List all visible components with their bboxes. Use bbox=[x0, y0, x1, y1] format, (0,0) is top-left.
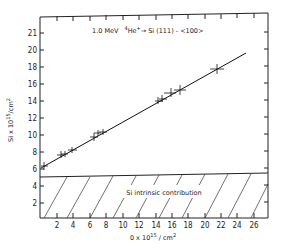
chart-title: 1.0 MeV4He+→Si (111) - <100> bbox=[92, 25, 203, 35]
x-tick-label: 4 bbox=[71, 221, 76, 230]
y-axis-title: Si x 1015/cm2 bbox=[5, 98, 15, 142]
y-tick-label: 8 bbox=[32, 148, 37, 157]
data-point bbox=[99, 129, 107, 135]
y-tick-label: 16 bbox=[28, 80, 38, 89]
region-label: Si intrinsic contribution bbox=[126, 189, 201, 197]
y-tick-label: 10 bbox=[28, 131, 38, 140]
x-tick-label: 14 bbox=[151, 221, 161, 230]
x-tick-label: 16 bbox=[167, 221, 177, 230]
y-tick-label: 18 bbox=[28, 63, 38, 72]
x-tick-label: 22 bbox=[216, 221, 225, 230]
si-intrinsic-region: Si intrinsic contribution bbox=[40, 173, 268, 218]
x-tick-label: 26 bbox=[249, 221, 259, 230]
x-axis: 2 4 6 8 10 12 14 16 18 20 22 24 26 0 x 1… bbox=[55, 13, 259, 242]
y-tick-label: 21 bbox=[28, 29, 37, 38]
x-tick-label: 12 bbox=[134, 221, 143, 230]
x-tick-label: 6 bbox=[88, 221, 93, 230]
y-tick-label: 12 bbox=[28, 114, 37, 123]
x-tick-label: 24 bbox=[232, 221, 242, 230]
y-tick-label: 2 bbox=[32, 199, 37, 208]
chart: Si intrinsic contribution bbox=[0, 0, 285, 252]
x-tick-label: 18 bbox=[183, 221, 193, 230]
x-axis-title: 0 x 1015 / cm2 bbox=[130, 232, 176, 242]
x-tick-label: 10 bbox=[118, 221, 128, 230]
svg-text:Si x 1015/cm2: Si x 1015/cm2 bbox=[5, 98, 15, 142]
y-tick-label: 20 bbox=[28, 46, 38, 55]
x-tick-label: 8 bbox=[104, 221, 109, 230]
data-point bbox=[174, 85, 186, 95]
x-tick-label: 2 bbox=[55, 221, 60, 230]
y-tick-label: 14 bbox=[28, 97, 38, 106]
y-tick-label: 4 bbox=[32, 182, 37, 191]
x-tick-label: 20 bbox=[200, 221, 210, 230]
y-tick-label: 6 bbox=[32, 165, 37, 174]
y-axis: 2 4 6 8 10 12 14 16 18 20 21 Si x 1015/c… bbox=[5, 29, 268, 208]
